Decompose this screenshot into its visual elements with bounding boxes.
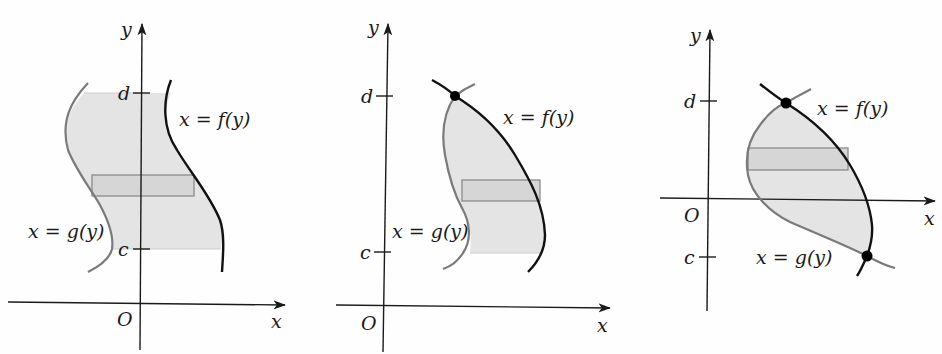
y-axis	[383, 24, 388, 352]
y-axis	[707, 30, 710, 311]
f-curve-label: x = f(y)	[817, 97, 888, 119]
f-curve-label: x = f(y)	[503, 106, 574, 128]
tick-label-c: c	[118, 238, 129, 260]
y-axis	[140, 24, 142, 350]
shaded-region	[747, 103, 872, 256]
origin-label: O	[361, 312, 377, 334]
representative-strip	[92, 175, 194, 196]
tick-label-d: d	[684, 90, 696, 112]
diagram-stage: y x O d c x = f(y) x = g(y) y x O d c x …	[0, 0, 942, 354]
tick-label-d: d	[361, 85, 373, 107]
tick-label-d: d	[118, 82, 130, 104]
tick-label-c: c	[360, 241, 371, 263]
x-axis	[8, 302, 285, 305]
intersection-point-lower	[862, 251, 873, 262]
f-curve-label: x = f(y)	[179, 108, 250, 130]
representative-strip	[462, 180, 540, 201]
panel-2: y x O d c x = f(y) x = g(y)	[336, 16, 610, 352]
intersection-point	[450, 91, 460, 101]
panel-1: y x O d c x = f(y) x = g(y)	[8, 18, 285, 350]
g-curve-label: x = g(y)	[392, 220, 468, 242]
y-axis-label: y	[689, 24, 701, 46]
x-axis-label: x	[271, 310, 282, 332]
y-axis-label: y	[367, 16, 379, 38]
tick-label-c: c	[684, 246, 695, 268]
x-axis-label: x	[924, 207, 935, 229]
y-axis-label: y	[120, 18, 132, 40]
x-axis-label: x	[597, 314, 608, 336]
x-axis	[336, 305, 610, 308]
g-curve-label: x = g(y)	[28, 220, 104, 242]
g-curve-label: x = g(y)	[756, 246, 832, 268]
origin-label: O	[117, 308, 133, 330]
intersection-point-upper	[781, 98, 792, 109]
panel-3: y x O d c x = f(y) x = g(y)	[660, 24, 935, 311]
origin-label: O	[684, 204, 700, 226]
representative-strip	[748, 148, 848, 170]
